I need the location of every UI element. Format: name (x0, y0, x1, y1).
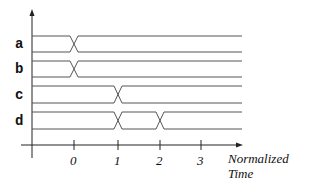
x-axis: 0 1 2 3 Normalized Time (21, 140, 289, 181)
waveform-c (32, 86, 242, 103)
waveform-d (32, 112, 242, 129)
tick-label-1: 1 (114, 153, 121, 168)
tick-label-0: 0 (70, 153, 77, 168)
timing-diagram: 0 1 2 3 Normalized Time a b c d (0, 0, 309, 188)
signal-label-c: c (15, 87, 23, 103)
waveform-a (32, 36, 242, 52)
x-axis-title-line2: Time (228, 166, 254, 181)
x-axis-title-line1: Normalized (227, 151, 289, 166)
signal-label-d: d (15, 113, 23, 129)
tick-label-2: 2 (156, 153, 163, 168)
signal-label-b: b (15, 61, 23, 77)
x-axis-arrow-icon (236, 143, 243, 148)
signal-label-a: a (15, 36, 24, 52)
waveform-b (32, 61, 242, 77)
y-axis (30, 9, 35, 158)
tick-label-3: 3 (196, 153, 204, 168)
y-axis-arrow-icon (30, 9, 35, 16)
